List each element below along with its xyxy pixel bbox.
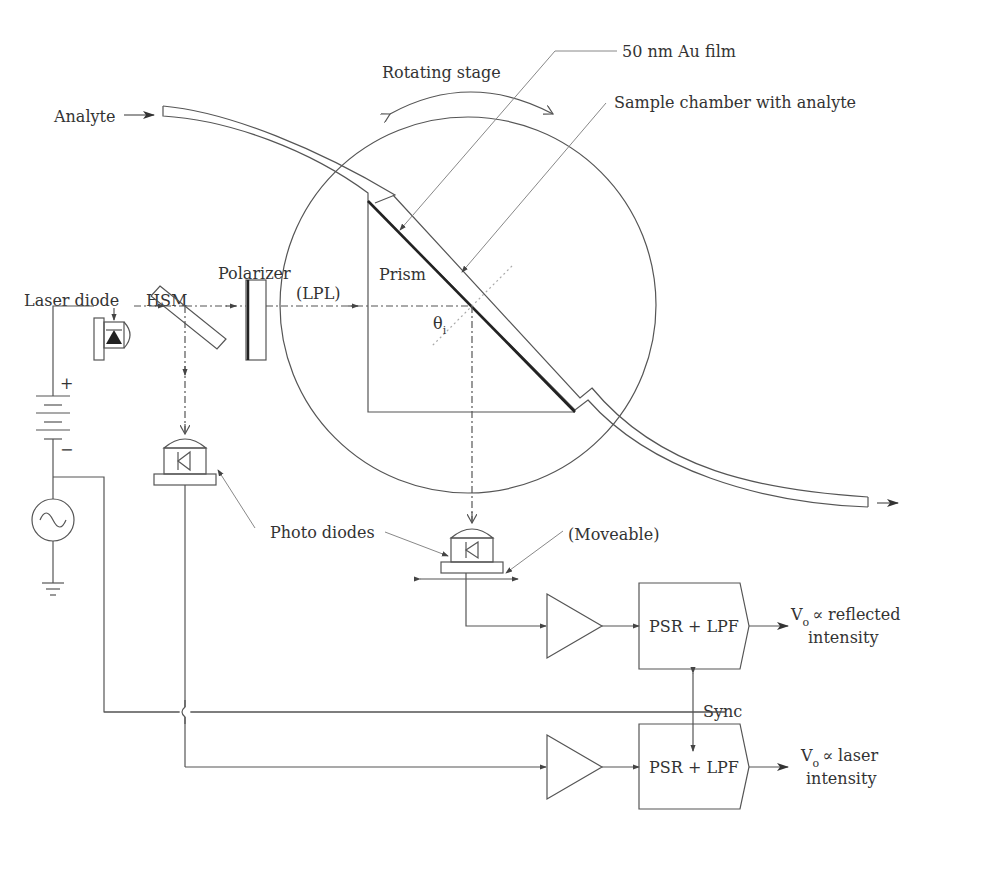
rotating-stage-label: Rotating stage (382, 63, 501, 82)
signal-photodiode (420, 529, 546, 626)
psr-lpf-label: PSR + LPF (649, 617, 739, 636)
photodiode-dome (451, 529, 493, 538)
moveable-label: (Moveable) (568, 525, 659, 544)
photodiode-body (164, 448, 206, 474)
battery-plus: + (60, 374, 73, 393)
flow-channel-inner-wall (368, 201, 868, 507)
sine-wave-icon (40, 513, 66, 527)
output-laser-label: Vo∝ laser (800, 746, 878, 770)
analyte-inlet: Analyte (53, 107, 154, 126)
photo-diodes-leader-ref (218, 470, 255, 528)
photodiode-icon (466, 542, 478, 558)
laser-diode: Laser diode (24, 291, 130, 360)
laser-diode-icon (106, 330, 122, 344)
analyte-label: Analyte (53, 107, 115, 126)
prism-label: Prism (379, 265, 426, 284)
photodiode-icon (178, 452, 190, 470)
laser-diode-mount (94, 318, 104, 360)
sync-wire (53, 477, 725, 712)
half-silvered-mirror: HSM (146, 286, 226, 349)
moveable-leader (506, 531, 563, 573)
psr-lpf-label: PSR + LPF (649, 758, 739, 777)
spr-setup-diagram: Analyte Rotating stage Prism 50 nm Au fi… (0, 0, 987, 875)
amplifier-icon (547, 735, 602, 799)
signal-wire (466, 573, 546, 626)
laser-reference-channel: PSR + LPF Vo∝ laser intensity (185, 724, 878, 809)
photo-diodes-leader-sig (385, 532, 448, 556)
battery-minus: − (60, 440, 73, 459)
laser-diode-label: Laser diode (24, 291, 119, 310)
photodiode-base (441, 562, 503, 573)
flow-channel-bottom-in (163, 106, 368, 201)
laser-diode-lens (124, 322, 130, 348)
photodiode-body (451, 538, 493, 562)
rotation-double-arrow-icon (390, 92, 553, 114)
photodiode-base (154, 474, 216, 485)
au-film-label: 50 nm Au film (622, 42, 736, 61)
lpl-label: (LPL) (296, 284, 341, 303)
output-laser-line2: intensity (806, 769, 876, 788)
output-reflected-label: Vo∝ reflected (790, 605, 900, 629)
output-reflected-line2: intensity (808, 628, 878, 647)
photodiode-dome (164, 439, 206, 448)
sample-chamber-label: Sample chamber with analyte (614, 93, 856, 112)
laser-drive-circuit: + − (32, 306, 725, 712)
photo-diodes-label: Photo diodes (270, 523, 375, 542)
crossover-mask (179, 707, 191, 717)
flow-channel-outer-wall (393, 195, 868, 497)
theta-label: θi (433, 314, 447, 337)
amplifier-icon (547, 594, 602, 658)
rotating-stage-circle (280, 117, 656, 493)
reflected-channel: PSR + LPF Vo∝ reflected intensity (547, 583, 900, 669)
